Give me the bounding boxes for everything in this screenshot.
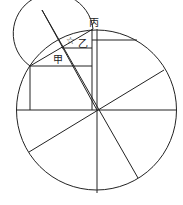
geometry-diagram: 丙 乙 甲 ☆ bbox=[0, 0, 183, 205]
label-bing: 丙 bbox=[89, 17, 99, 28]
star-icon: ☆ bbox=[66, 35, 75, 46]
label-jia: 甲 bbox=[53, 54, 63, 65]
label-yi: 乙 bbox=[78, 38, 88, 49]
